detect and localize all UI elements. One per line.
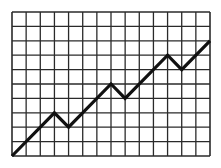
chart-container [0, 0, 221, 168]
line-chart [0, 0, 221, 168]
